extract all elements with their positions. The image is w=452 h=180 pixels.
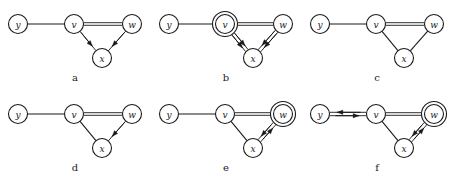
node-v-label: v [373, 110, 378, 120]
node-v[interactable]: v [213, 12, 238, 37]
node-w[interactable]: w [123, 15, 142, 34]
node-v[interactable]: v [367, 15, 386, 34]
node-x[interactable]: x [395, 49, 414, 68]
node-y-label: y [14, 20, 21, 30]
panel-caption-d: d [0, 162, 150, 173]
edge-v-w [84, 23, 123, 26]
node-v[interactable]: v [367, 105, 386, 124]
node-x[interactable]: x [244, 139, 263, 158]
node-x-label: x [250, 144, 255, 154]
node-w[interactable]: w [425, 15, 444, 34]
node-v-label: v [222, 110, 227, 120]
edge-v-x [382, 31, 398, 50]
node-v-label: v [71, 110, 76, 120]
node-y[interactable]: y [9, 15, 28, 34]
edge-v-x [232, 33, 248, 52]
node-y[interactable]: y [9, 105, 28, 124]
node-x[interactable]: x [395, 139, 414, 158]
edge-w-x [409, 122, 427, 142]
arrow-head-icon [353, 114, 359, 118]
node-y[interactable]: y [311, 105, 330, 124]
node-y-label: y [316, 110, 323, 120]
node-w-label: w [279, 20, 287, 30]
node-v-label: v [222, 20, 227, 30]
panel-caption-e: e [151, 162, 301, 173]
panel-caption-c: c [302, 72, 452, 83]
node-x-label: x [250, 54, 255, 64]
node-w[interactable]: w [123, 105, 142, 124]
edge-v-w [386, 113, 422, 116]
panel-caption-a: a [0, 72, 150, 83]
node-y[interactable]: y [311, 15, 330, 34]
edge-v-w [238, 23, 274, 26]
node-y-label: y [165, 110, 172, 120]
node-x-label: x [401, 144, 406, 154]
node-v[interactable]: v [216, 105, 235, 124]
node-w-label: w [430, 20, 438, 30]
node-w-label: w [430, 110, 438, 120]
edge-w-x [258, 122, 276, 142]
edge-v-w [386, 23, 425, 26]
node-x[interactable]: x [244, 49, 263, 68]
edge-v-w [84, 113, 123, 116]
edge-v-x [80, 121, 96, 140]
node-y-label: y [165, 20, 172, 30]
node-v-label: v [71, 20, 76, 30]
node-x-label: x [99, 54, 104, 64]
node-v[interactable]: v [65, 15, 84, 34]
node-y-label: y [316, 20, 323, 30]
edge-v-w [235, 113, 271, 116]
node-w[interactable]: w [274, 15, 293, 34]
graph-figure: yvwxayvwxbyvwxcyvwxdyvwxeyvwxf [0, 0, 452, 180]
node-x-label: x [99, 144, 104, 154]
panel-caption-f: f [302, 162, 452, 173]
edge-w-x [108, 121, 125, 141]
node-w-label: w [279, 110, 287, 120]
node-v-label: v [373, 20, 378, 30]
edge-w-x [108, 31, 125, 51]
edge-v-x [231, 121, 247, 140]
node-w[interactable]: w [422, 102, 447, 127]
panel-caption-b: b [151, 72, 301, 83]
node-w-label: w [128, 20, 136, 30]
node-w[interactable]: w [271, 102, 296, 127]
node-x[interactable]: x [93, 49, 112, 68]
edge-w-x [258, 30, 278, 52]
node-y-label: y [14, 110, 21, 120]
edge-v-x [80, 31, 96, 50]
edge-w-x [410, 31, 427, 51]
edge-v-x [382, 121, 398, 140]
node-w-label: w [128, 110, 136, 120]
node-y[interactable]: y [160, 15, 179, 34]
node-x-label: x [401, 54, 406, 64]
node-y[interactable]: y [160, 105, 179, 124]
node-x[interactable]: x [93, 139, 112, 158]
arrow-head-icon [337, 110, 343, 114]
node-v[interactable]: v [65, 105, 84, 124]
edge-y-v [330, 110, 367, 118]
